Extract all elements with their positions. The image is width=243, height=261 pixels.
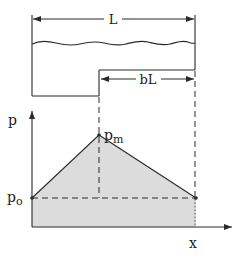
label-p-m-sub: m	[113, 133, 124, 146]
label-p-o-main: p	[7, 189, 16, 205]
label-p-o-sub: o	[16, 195, 23, 208]
x-axis-label: x	[189, 235, 197, 251]
label-p-m-main: p	[104, 127, 113, 143]
channel-schematic	[32, 15, 195, 96]
dimension-L: L	[33, 12, 194, 27]
y-axis-label: p	[8, 112, 17, 128]
dimension-bL: bL	[101, 72, 194, 87]
step-pressure-diagram: L bL p x pm po	[0, 0, 243, 261]
label-p-o: po	[7, 189, 23, 208]
point-end	[194, 196, 198, 200]
free-surface-wave	[32, 41, 195, 45]
label-L: L	[109, 12, 118, 27]
label-bL: bL	[140, 72, 157, 87]
point-p-m	[97, 133, 101, 137]
pressure-area-fill	[32, 135, 196, 227]
